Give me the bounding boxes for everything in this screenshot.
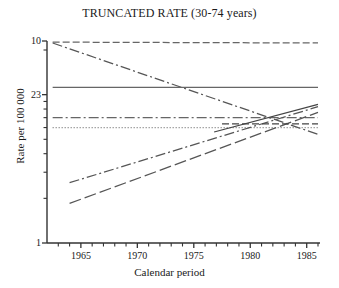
- series-line: [70, 112, 318, 203]
- y-tick-label: 10: [11, 35, 41, 46]
- x-tick-label: 1980: [230, 250, 270, 261]
- y-tick-label: 1: [11, 237, 41, 248]
- x-tick-label: 1970: [117, 250, 157, 261]
- x-axis-label: Calendar period: [0, 266, 339, 278]
- x-tick-label: 1985: [287, 250, 327, 261]
- chart-figure: TRUNCATED RATE (30-74 years) Rate per 10…: [0, 0, 339, 288]
- x-tick-label: 1975: [174, 250, 214, 261]
- series-line: [53, 43, 318, 134]
- y-tick-label: 23: [11, 89, 41, 100]
- y-axis-label: Rate per 100 000: [14, 66, 26, 186]
- plot-area: [0, 0, 339, 288]
- series-line: [53, 42, 318, 43]
- x-tick-label: 1965: [61, 250, 101, 261]
